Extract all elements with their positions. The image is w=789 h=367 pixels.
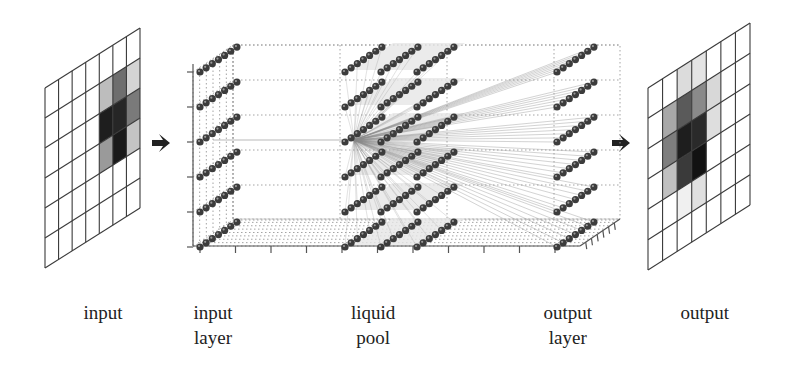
neuron-node — [396, 161, 403, 168]
label-input-layer: inputlayer — [194, 300, 233, 350]
neuron-node — [572, 231, 579, 238]
neuron-node — [227, 48, 234, 55]
neuron-node — [196, 173, 203, 180]
neuron-node — [450, 78, 457, 85]
neuron-node — [420, 99, 427, 106]
neuron-node — [221, 192, 228, 199]
label-text: output — [544, 300, 593, 325]
neuron-node — [420, 134, 427, 141]
neuron-node — [566, 130, 573, 137]
neuron-node — [572, 196, 579, 203]
neuron-node — [408, 223, 415, 230]
neuron-node — [354, 95, 361, 102]
neuron-node — [378, 43, 385, 50]
neuron-node — [227, 223, 234, 230]
neuron-node — [233, 218, 240, 225]
neuron-node — [354, 235, 361, 242]
neuron-node — [209, 165, 216, 172]
neuron-node — [377, 138, 384, 145]
neuron-node — [360, 161, 367, 168]
neuron-node — [378, 218, 385, 225]
neuron-node — [450, 218, 457, 225]
neuron-node — [390, 200, 397, 207]
neuron-node — [553, 138, 560, 145]
neuron-node — [354, 130, 361, 137]
neuron-node — [196, 243, 203, 250]
neuron-node — [450, 113, 457, 120]
neuron-node — [354, 60, 361, 67]
neuron-node — [426, 235, 433, 242]
neuron-node — [426, 200, 433, 207]
label-text: output — [681, 300, 730, 325]
neuron-node — [438, 227, 445, 234]
neuron-node — [233, 113, 240, 120]
label-text: layer — [194, 325, 233, 350]
neuron-node — [348, 134, 355, 141]
label-text: input — [84, 300, 123, 325]
neuron-node — [341, 68, 348, 75]
neuron-node — [384, 169, 391, 176]
neuron-node — [366, 157, 373, 164]
neuron-node — [377, 208, 384, 215]
neuron-node — [444, 118, 451, 125]
neuron-node — [560, 169, 567, 176]
neuron-node — [420, 169, 427, 176]
neuron-node — [444, 153, 451, 160]
neuron-node — [221, 87, 228, 94]
neuron-node — [196, 208, 203, 215]
neuron-node — [560, 239, 567, 246]
neuron-node — [341, 173, 348, 180]
neuron-node — [414, 148, 421, 155]
input-layer-neurons — [196, 43, 240, 250]
neuron-node — [572, 161, 579, 168]
neuron-node — [196, 138, 203, 145]
neuron-node — [372, 223, 379, 230]
label-text: input — [194, 300, 233, 325]
neuron-node — [360, 231, 367, 238]
neuron-node — [553, 68, 560, 75]
neuron-node — [227, 118, 234, 125]
neuron-node — [438, 192, 445, 199]
neuron-node — [360, 196, 367, 203]
neuron-node — [396, 56, 403, 63]
neuron-node — [360, 126, 367, 133]
neuron-node — [444, 83, 451, 90]
neuron-node — [348, 64, 355, 71]
neuron-node — [553, 208, 560, 215]
output-grid — [648, 23, 750, 270]
neuron-node — [413, 103, 420, 110]
neuron-node — [420, 64, 427, 71]
neuron-node — [402, 192, 409, 199]
neuron-node — [578, 227, 585, 234]
neuron-node — [414, 78, 421, 85]
neuron-node — [578, 122, 585, 129]
neuron-node — [413, 68, 420, 75]
neuron-node — [209, 235, 216, 242]
neuron-node — [372, 48, 379, 55]
neuron-node — [450, 183, 457, 190]
neuron-node — [413, 173, 420, 180]
neuron-node — [203, 64, 210, 71]
neuron-node — [203, 99, 210, 106]
output-layer-neurons — [553, 43, 597, 250]
label-liquid-pool: liquidpool — [351, 300, 395, 350]
neuron-node — [233, 43, 240, 50]
neuron-node — [227, 188, 234, 195]
neuron-node — [203, 134, 210, 141]
neuron-node — [560, 204, 567, 211]
neuron-node — [584, 83, 591, 90]
neuron-node — [426, 165, 433, 172]
neuron-node — [402, 157, 409, 164]
neuron-node — [413, 138, 420, 145]
neuron-node — [432, 231, 439, 238]
neuron-node — [450, 148, 457, 155]
neuron-node — [378, 78, 385, 85]
neuron-node — [408, 83, 415, 90]
neuron-node — [553, 103, 560, 110]
neuron-node — [432, 161, 439, 168]
neuron-node — [354, 165, 361, 172]
neuron-node — [233, 78, 240, 85]
neuron-node — [438, 52, 445, 59]
neuron-node — [203, 204, 210, 211]
neuron-node — [227, 83, 234, 90]
